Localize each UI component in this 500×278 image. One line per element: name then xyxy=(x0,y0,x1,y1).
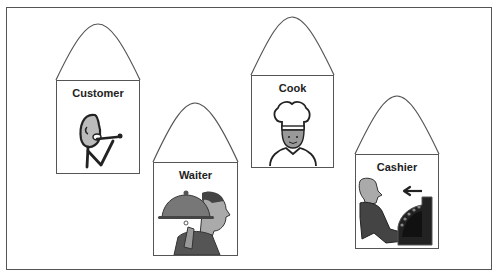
chef-icon xyxy=(252,100,333,166)
card-waiter: Waiter xyxy=(153,101,238,256)
arch-customer xyxy=(56,22,140,82)
box-cook: Cook xyxy=(251,75,334,168)
arch-waiter xyxy=(153,101,238,163)
card-cashier: Cashier xyxy=(355,94,439,249)
arch-cook xyxy=(251,15,334,77)
box-customer: Customer xyxy=(56,80,140,174)
arch-cashier xyxy=(355,94,439,156)
label-customer: Customer xyxy=(57,87,139,99)
waiter-with-cloche-icon xyxy=(154,187,237,255)
label-cashier: Cashier xyxy=(356,161,438,173)
card-cook: Cook xyxy=(251,15,334,168)
label-waiter: Waiter xyxy=(154,169,237,181)
cashier-register-icon xyxy=(356,177,438,247)
box-waiter: Waiter xyxy=(153,162,238,256)
box-cashier: Cashier xyxy=(355,154,439,249)
customer-eating-icon xyxy=(57,105,139,171)
label-cook: Cook xyxy=(252,82,333,94)
card-customer: Customer xyxy=(56,22,140,174)
